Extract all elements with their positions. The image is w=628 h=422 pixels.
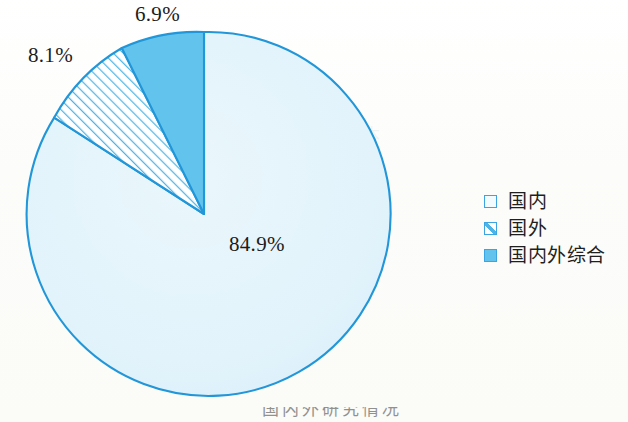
chart-legend: 国内 国外 国内外综合 — [484, 190, 606, 266]
legend-item-combined[interactable]: 国内外综合 — [484, 244, 606, 266]
solid-blue-swatch-icon — [484, 249, 497, 262]
legend-label-foreign: 国外 — [508, 219, 547, 238]
caption-cutoff: 国内外研究情况 — [262, 407, 512, 422]
slice-label-foreign: 8.1% — [28, 43, 73, 68]
hatched-swatch-icon — [484, 222, 497, 235]
light-fill-swatch-icon — [484, 195, 497, 208]
slice-label-domestic: 84.9% — [229, 232, 285, 257]
legend-item-foreign[interactable]: 国外 — [484, 217, 606, 239]
legend-label-combined: 国内外综合 — [508, 246, 606, 265]
pie-chart-figure: 本书内容涉及的国内外研究现状与统计数据分析整理结果说明表格中的若干项目对比情况以… — [0, 0, 628, 422]
slice-label-combined: 6.9% — [135, 2, 180, 27]
legend-label-domestic: 国内 — [508, 192, 547, 211]
legend-item-domestic[interactable]: 国内 — [484, 190, 606, 212]
caption-cutoff-text: 国内外研究情况 — [262, 407, 512, 420]
